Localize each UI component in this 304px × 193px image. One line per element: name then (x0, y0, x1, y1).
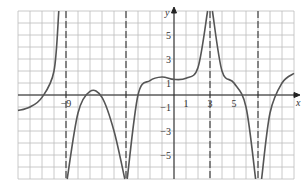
y-tick-label: −3 (160, 126, 171, 137)
x-tick-label: 1 (184, 98, 189, 109)
curve-branch-5 (262, 73, 294, 179)
curve-branch-1 (18, 11, 59, 111)
x-tick-label: 5 (232, 98, 237, 109)
y-tick-label: −1 (160, 102, 171, 113)
y-axis-label: y (164, 7, 170, 18)
y-tick-label: 1 (166, 78, 171, 89)
x-axis-label: x (295, 97, 301, 108)
curve-branch-2 (67, 90, 125, 179)
y-tick-label: 3 (166, 54, 171, 65)
chart: −9135531−1−3−5xy (0, 0, 304, 193)
x-tick-label: 3 (208, 98, 213, 109)
y-arrow-icon (172, 7, 177, 13)
y-tick-label: 5 (166, 30, 171, 41)
y-tick-label: −5 (160, 150, 171, 161)
x-tick-label: −9 (61, 98, 72, 109)
tick-labels: −9135531−1−3−5xy (61, 7, 301, 161)
